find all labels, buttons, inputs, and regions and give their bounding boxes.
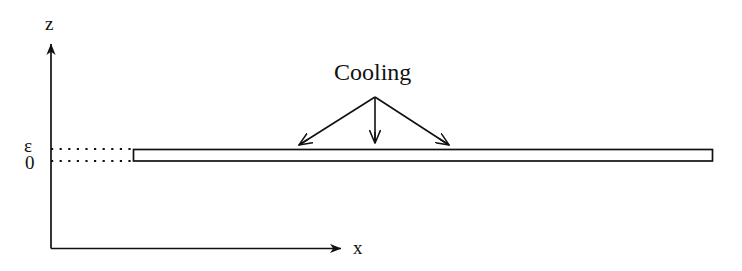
figure-root: z x ε 0 Cooling [0,0,742,271]
cooling-arrow-group [299,97,449,145]
cooling-annotation-label: Cooling [334,60,411,84]
z-axis-label: z [45,14,53,33]
diagram-canvas [0,0,742,271]
cooling-arrow-left [299,97,375,145]
zero-tick-label: 0 [25,153,35,172]
guide-line-group [51,149,133,161]
cooling-arrow-right [375,97,449,145]
slab-rectangle [134,150,713,162]
x-axis-label: x [353,238,363,257]
axis-group [51,44,341,249]
